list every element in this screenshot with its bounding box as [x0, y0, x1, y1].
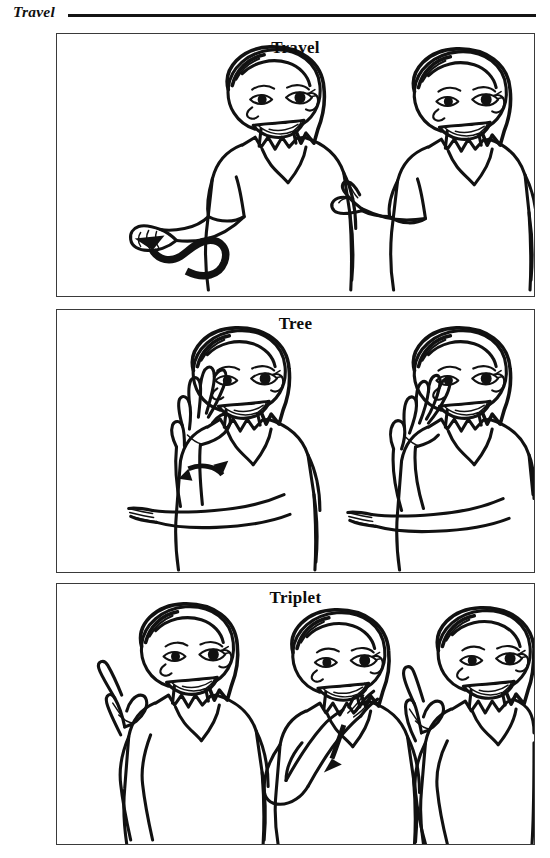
figure-triplet-3	[404, 608, 534, 844]
figure-travel-1	[131, 47, 356, 290]
figure-group-travel	[57, 34, 534, 296]
figure-triplet-1	[98, 604, 268, 844]
panel-title-triplet: Triplet	[57, 588, 534, 608]
running-header-label: Travel	[13, 3, 55, 21]
sign-panel-travel: Travel	[56, 33, 535, 297]
figure-tree-2	[348, 328, 534, 570]
figure-group-triplet	[57, 584, 534, 844]
figure-triplet-2	[264, 610, 419, 844]
figure-group-tree	[57, 310, 534, 572]
panel-title-travel: Travel	[57, 38, 534, 58]
sign-panel-triplet: Triplet	[56, 583, 535, 845]
figure-tree-1	[129, 328, 320, 570]
figure-travel-2	[332, 49, 534, 290]
panel-title-tree: Tree	[57, 314, 534, 334]
running-header: Travel	[0, 0, 550, 30]
header-rule	[68, 14, 536, 17]
sign-panel-tree: Tree	[56, 309, 535, 573]
